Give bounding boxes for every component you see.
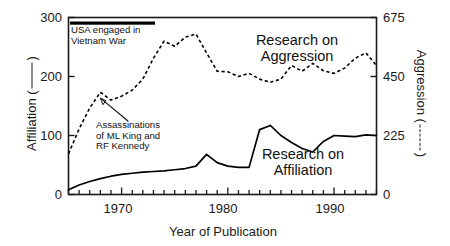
affiliation-series-label-line-1: Research on: [238, 146, 368, 162]
y-axis-title-left: Affiliation (): [24, 29, 39, 179]
y-axis-title-right: Aggression (): [414, 29, 429, 179]
ytick-right-label-0: 0: [383, 187, 390, 202]
xtick-label-1970: 1970: [88, 201, 148, 216]
xtick-label-1980: 1980: [193, 201, 253, 216]
vietnam-war-annotation: USA engaged in Vietnam War: [71, 25, 140, 46]
y-axis-title-right-text: Aggression (: [414, 50, 429, 123]
ytick-label-0: 0: [22, 187, 62, 202]
x-axis-ticks: [69, 188, 377, 195]
ytick-right-label-225: 225: [383, 128, 405, 143]
affiliation-series-label: Research on Affiliation: [238, 146, 368, 178]
assassinations-arrowhead: [100, 98, 106, 105]
chart-figure: 300 200 100 0 675 450 225 0 1970 1980 19…: [0, 0, 450, 246]
xtick-label-1990: 1990: [300, 201, 360, 216]
ytick-label-300: 300: [22, 10, 62, 25]
aggression-series-label-line-2: Aggression: [232, 48, 362, 64]
y-axis-title-left-tail: ): [24, 56, 39, 60]
x-axis-title: Year of Publication: [118, 224, 328, 239]
assassinations-annotation: Assassinations of ML King and RF Kennedy: [96, 120, 160, 152]
assassinations-line-3: RF Kennedy: [96, 141, 160, 152]
vietnam-war-line-2: Vietnam War: [71, 36, 140, 47]
solid-line-key-icon: [32, 62, 33, 88]
vietnam-war-line-1: USA engaged in: [71, 25, 140, 36]
dashed-line-key-icon: [419, 125, 420, 151]
assassinations-line-1: Assassinations: [96, 120, 160, 131]
affiliation-series-label-line-2: Affiliation: [238, 162, 368, 178]
ytick-right-label-450: 450: [383, 69, 405, 84]
y-axis-title-right-tail: ): [414, 153, 429, 157]
assassinations-arrow: [100, 98, 128, 121]
aggression-series-label-line-1: Research on: [232, 32, 362, 48]
y-axis-title-left-text: Affiliation (: [24, 90, 39, 150]
ytick-right-label-675: 675: [383, 10, 405, 25]
right-axis-ticks: [371, 18, 377, 195]
aggression-series-label: Research on Aggression: [232, 32, 362, 64]
